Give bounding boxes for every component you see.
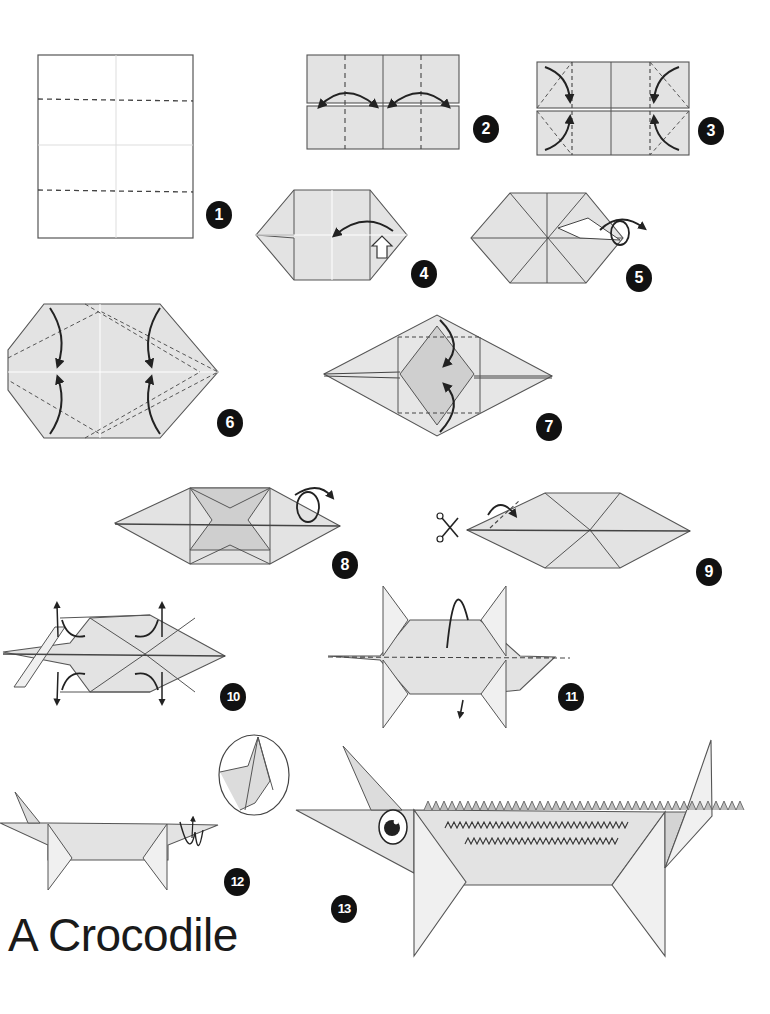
step-11-diagram [328,586,570,728]
step-13-diagram [296,740,744,956]
step-badge-2: 2 [473,115,499,143]
step-badge-6: 6 [217,409,243,437]
step-3-diagram [537,62,689,155]
step-badge-10: 10 [220,683,246,711]
step-10-diagram [3,604,225,703]
step-12-diagram [0,735,289,890]
step-badge-1: 1 [206,201,232,229]
step-badge-13: 13 [331,895,357,923]
step-1-diagram [38,55,193,238]
step-badge-4: 4 [411,260,437,288]
origami-instructions-diagram [0,0,770,1014]
step-badge-9: 9 [696,558,722,586]
step-2-diagram [307,55,459,149]
step-9-diagram [437,493,690,568]
step-8-diagram [115,488,340,564]
eye-icon [379,810,407,844]
step-5-diagram [471,193,644,283]
step-6-diagram [8,304,218,438]
step-badge-11: 11 [558,683,584,711]
step-badge-3: 3 [698,117,724,145]
step-badge-5: 5 [626,264,652,292]
step-badge-12: 12 [224,868,250,896]
page-title: A Crocodile [8,908,238,962]
step-4-diagram [256,190,407,280]
step-7-diagram [324,315,552,436]
scissors-icon [437,513,458,542]
step-badge-7: 7 [536,413,562,441]
step-badge-8: 8 [332,551,358,579]
